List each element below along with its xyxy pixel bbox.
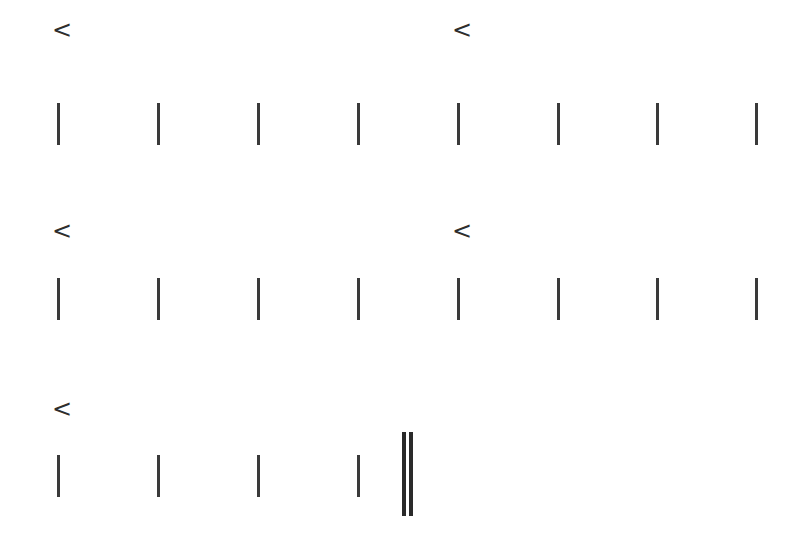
barline <box>357 455 360 497</box>
barline <box>257 278 260 320</box>
barline <box>557 278 560 320</box>
barline <box>457 103 460 145</box>
barline <box>755 103 758 145</box>
barline <box>656 278 659 320</box>
barline <box>357 278 360 320</box>
barline <box>656 103 659 145</box>
barline <box>557 103 560 145</box>
less-than-marker-icon: < <box>452 18 472 42</box>
barline <box>257 103 260 145</box>
barline <box>57 455 60 497</box>
barline <box>57 103 60 145</box>
barline <box>457 278 460 320</box>
final-double-barline <box>402 432 406 516</box>
less-than-marker-icon: < <box>52 219 72 243</box>
barline <box>157 103 160 145</box>
barline <box>357 103 360 145</box>
final-double-barline <box>409 432 413 516</box>
barline <box>257 455 260 497</box>
barline <box>57 278 60 320</box>
barline <box>755 278 758 320</box>
less-than-marker-icon: < <box>52 397 72 421</box>
less-than-marker-icon: < <box>452 219 472 243</box>
less-than-marker-icon: < <box>52 18 72 42</box>
barline <box>157 278 160 320</box>
barline <box>157 455 160 497</box>
